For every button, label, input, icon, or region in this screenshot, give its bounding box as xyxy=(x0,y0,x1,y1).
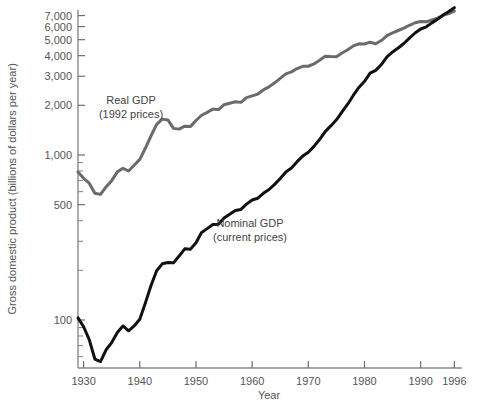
y-tick-label: 5,000 xyxy=(44,34,72,46)
x-tick-label: 1990 xyxy=(408,375,432,387)
real-gdp-annotation-line2: (1992 prices) xyxy=(99,108,163,120)
y-tick-label: 100 xyxy=(54,314,72,326)
x-axis-title: Year xyxy=(258,389,281,401)
chart-background xyxy=(0,0,481,411)
x-tick-label: 1980 xyxy=(352,375,376,387)
x-tick-label: 1970 xyxy=(296,375,320,387)
y-tick-label: 1,000 xyxy=(44,149,72,161)
y-tick-label: 3,000 xyxy=(44,70,72,82)
y-tick-label: 6,000 xyxy=(44,21,72,33)
gdp-chart-figure: 7,0006,0005,0004,0003,0002,0001,00050010… xyxy=(0,0,481,411)
nominal-gdp-annotation-line2: (current prices) xyxy=(213,231,287,243)
x-tick-label: 1996 xyxy=(442,375,466,387)
x-tick-label: 1930 xyxy=(71,375,95,387)
y-tick-label: 2,000 xyxy=(44,99,72,111)
gdp-log-line-chart: 7,0006,0005,0004,0003,0002,0001,00050010… xyxy=(0,0,481,411)
x-tick-label: 1940 xyxy=(128,375,152,387)
y-tick-label: 4,000 xyxy=(44,50,72,62)
nominal-gdp-annotation-line1: Nominal GDP xyxy=(216,217,283,229)
y-axis-title: Gross domestic product (billions of doll… xyxy=(6,63,18,314)
x-tick-label: 1950 xyxy=(184,375,208,387)
real-gdp-annotation-line1: Real GDP xyxy=(106,94,156,106)
y-tick-label: 500 xyxy=(54,199,72,211)
x-tick-label: 1960 xyxy=(240,375,264,387)
